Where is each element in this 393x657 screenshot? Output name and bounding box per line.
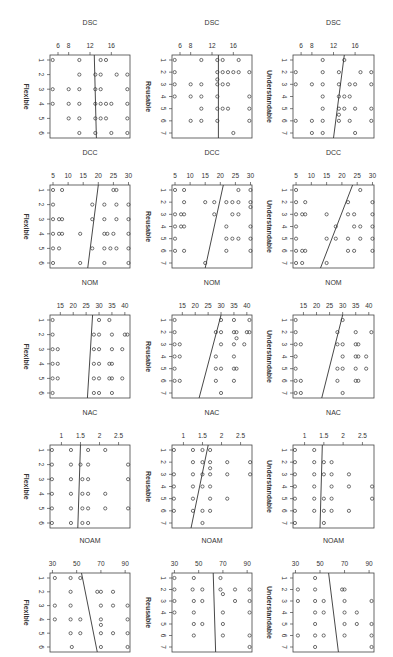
- data-point: [232, 71, 235, 74]
- data-point: [50, 478, 53, 481]
- data-point: [248, 473, 251, 476]
- y-tick-label: 3: [38, 604, 45, 608]
- y-tick-label: 2: [38, 203, 45, 207]
- data-point: [91, 247, 94, 250]
- data-point: [293, 521, 296, 524]
- data-point: [69, 521, 72, 524]
- x-axis-title: NOAM: [202, 537, 223, 544]
- x-axis-title: NAC: [326, 409, 341, 416]
- x-tick-label: 70: [97, 560, 105, 567]
- x-tick-label: 6: [178, 42, 182, 49]
- data-point: [221, 58, 224, 61]
- data-point: [79, 261, 82, 264]
- panel-dcc-flexible: DCC51015202530123456Flexible: [23, 149, 132, 268]
- y-tick-label: 5: [160, 622, 167, 626]
- data-point: [108, 318, 111, 321]
- data-point: [341, 367, 344, 370]
- x-tick-label: 15: [179, 302, 187, 309]
- data-point: [371, 249, 374, 252]
- data-point: [343, 599, 346, 602]
- data-point: [192, 576, 195, 579]
- data-point: [69, 632, 72, 635]
- data-point: [343, 611, 346, 614]
- data-point: [322, 509, 325, 512]
- data-point: [370, 622, 373, 625]
- x-axis-title: NOM: [82, 279, 99, 286]
- regression-line: [94, 55, 96, 138]
- x-axis-title: NAC: [205, 409, 220, 416]
- data-point: [51, 218, 54, 221]
- y-tick-label: 4: [281, 611, 288, 615]
- data-point: [51, 377, 54, 380]
- data-point: [294, 391, 297, 394]
- data-point: [173, 188, 176, 191]
- data-point: [189, 119, 192, 122]
- y-tick-label: 4: [38, 362, 45, 366]
- y-tick-label: 5: [160, 107, 167, 111]
- y-tick-label: 1: [160, 58, 167, 62]
- data-point: [51, 102, 54, 105]
- data-point: [81, 478, 84, 481]
- data-point: [86, 478, 89, 481]
- data-point: [51, 232, 54, 235]
- y-tick-label: 1: [160, 576, 167, 580]
- data-point: [79, 463, 82, 466]
- data-point: [51, 88, 54, 91]
- plot-frame: [172, 55, 252, 138]
- data-point: [110, 348, 113, 351]
- y-axis-title: Reusable: [145, 211, 152, 242]
- data-point: [310, 131, 313, 134]
- data-point: [341, 343, 344, 346]
- x-tick-label: 70: [219, 560, 227, 567]
- y-tick-label: 2: [281, 70, 288, 74]
- data-point: [172, 497, 175, 500]
- data-point: [248, 461, 251, 464]
- data-point: [53, 604, 56, 607]
- data-point: [321, 131, 324, 134]
- data-point: [248, 634, 251, 637]
- y-tick-label: 2: [281, 200, 288, 204]
- data-point: [51, 318, 54, 321]
- y-tick-label: 6: [160, 509, 167, 513]
- data-point: [353, 225, 356, 228]
- x-tick-label: 2: [341, 432, 345, 439]
- data-point: [99, 117, 102, 120]
- data-point: [221, 71, 224, 74]
- data-point: [355, 622, 358, 625]
- data-point: [221, 611, 224, 614]
- x-tick-label: 12: [330, 42, 338, 49]
- y-tick-label: 4: [281, 225, 288, 229]
- data-point: [126, 618, 129, 621]
- data-point: [56, 377, 59, 380]
- data-point: [191, 485, 194, 488]
- data-point: [173, 213, 176, 216]
- data-point: [79, 232, 82, 235]
- x-tick-label: 30: [95, 302, 103, 309]
- data-point: [86, 492, 89, 495]
- data-point: [346, 201, 349, 204]
- data-point: [56, 348, 59, 351]
- data-point: [353, 249, 356, 252]
- y-tick-label: 6: [281, 634, 288, 638]
- x-axis-title: NOM: [204, 279, 221, 286]
- x-tick-label: 30: [247, 172, 255, 179]
- data-point: [299, 391, 302, 394]
- y-tick-label: 3: [160, 83, 167, 87]
- y-tick-label: 6: [38, 131, 45, 135]
- data-point: [173, 367, 176, 370]
- data-point: [200, 83, 203, 86]
- data-point: [81, 521, 84, 524]
- data-point: [97, 377, 100, 380]
- y-tick-label: 5: [281, 367, 288, 371]
- x-tick-label: 1: [303, 432, 307, 439]
- data-point: [78, 117, 81, 120]
- data-point: [99, 604, 102, 607]
- x-tick-label: 10: [308, 172, 316, 179]
- data-point: [103, 261, 106, 264]
- data-point: [69, 507, 72, 510]
- data-point: [226, 107, 229, 110]
- x-tick-label: 90: [122, 560, 130, 567]
- data-point: [310, 119, 313, 122]
- y-tick-label: 2: [160, 588, 167, 592]
- x-tick-label: 6: [299, 42, 303, 49]
